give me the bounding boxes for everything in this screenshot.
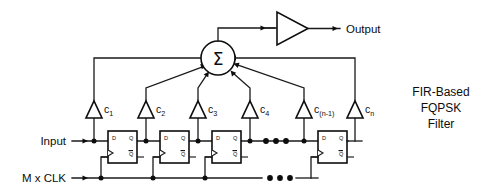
coef-n-sub: n bbox=[370, 109, 374, 118]
svg-text:Input: Input bbox=[40, 135, 66, 147]
svg-text:M x CLK: M x CLK bbox=[22, 172, 66, 184]
svg-text:c(n-1): c(n-1) bbox=[314, 103, 334, 118]
ff3-q-label: Q bbox=[233, 135, 238, 141]
clock-label: M x CLK bbox=[22, 172, 66, 184]
ffn-qbar-label: Q bbox=[339, 151, 344, 157]
output-wire bbox=[308, 26, 340, 31]
caption-block: FIR-Based FQPSK Filter bbox=[412, 85, 469, 131]
svg-text:Output: Output bbox=[346, 23, 381, 35]
sum-route-n bbox=[231, 55, 356, 101]
svg-text:c1: c1 bbox=[104, 103, 113, 118]
input-label: Input bbox=[40, 135, 66, 147]
fir-filter-diagram: D Q Q D Q Q D Q Q bbox=[0, 0, 496, 196]
schematic-canvas: D Q Q D Q Q D Q Q bbox=[0, 0, 496, 196]
ffn-d-label: D bbox=[322, 135, 326, 141]
flipflop-3[interactable]: D Q Q bbox=[205, 131, 248, 163]
coef-amplifier-n-minus-1[interactable] bbox=[296, 101, 312, 118]
ff3-qbar-label: Q bbox=[233, 151, 238, 157]
summer-output-wire bbox=[218, 25, 277, 41]
svg-text:c2: c2 bbox=[156, 103, 165, 118]
coef-amplifier-4[interactable] bbox=[242, 101, 258, 118]
ff1-d-label: D bbox=[112, 135, 116, 141]
coef-amplifier-1[interactable] bbox=[86, 101, 102, 118]
flipflop-1[interactable]: D Q Q bbox=[101, 131, 144, 163]
coef-amplifier-2[interactable] bbox=[138, 101, 154, 118]
coef-label-n: cn bbox=[365, 103, 374, 118]
svg-text:cn: cn bbox=[365, 103, 374, 118]
caption-line-3: Filter bbox=[428, 117, 455, 131]
clock-bus-ellipsis bbox=[267, 175, 293, 181]
ff3-d-label: D bbox=[216, 135, 220, 141]
coef-label-4: c4 bbox=[260, 103, 269, 118]
caption-line-1: FIR-Based bbox=[412, 85, 469, 99]
coef-label-3: c3 bbox=[208, 103, 217, 118]
ff2-q-label: Q bbox=[181, 135, 186, 141]
ff2-d-label: D bbox=[164, 135, 168, 141]
output-label: Output bbox=[346, 23, 381, 35]
sum-route-4 bbox=[231, 71, 250, 102]
output-amplifier[interactable] bbox=[277, 12, 308, 45]
summing-junction[interactable]: Σ bbox=[201, 41, 235, 75]
coef-label-2: c2 bbox=[156, 103, 165, 118]
svg-text:c4: c4 bbox=[260, 103, 269, 118]
coef-1-sub: 1 bbox=[109, 109, 113, 118]
ff1-qbar-label: Q bbox=[129, 151, 134, 157]
sum-route-1 bbox=[94, 55, 207, 101]
coef-3-sub: 3 bbox=[213, 109, 217, 118]
svg-text:c3: c3 bbox=[208, 103, 217, 118]
coef-2-sub: 2 bbox=[161, 109, 165, 118]
flipflop-n[interactable]: D Q Q bbox=[311, 131, 354, 163]
coef-4-sub: 4 bbox=[265, 109, 269, 118]
ff1-q-label: Q bbox=[129, 135, 134, 141]
input-arrow-icon bbox=[83, 138, 89, 143]
clock-arrow-icon bbox=[83, 175, 89, 180]
ffn-q-label: Q bbox=[339, 135, 344, 141]
caption-line-2: FQPSK bbox=[421, 101, 462, 115]
coef-label-n-minus-1: c(n-1) bbox=[314, 103, 334, 118]
input-bus-ellipsis bbox=[263, 138, 289, 144]
coef-amplifier-3[interactable] bbox=[190, 101, 206, 118]
coef-amplifier-n[interactable] bbox=[347, 101, 363, 118]
ff2-qbar-label: Q bbox=[181, 151, 186, 157]
flipflop-2[interactable]: D Q Q bbox=[153, 131, 196, 163]
coef-n1-sub: (n-1) bbox=[319, 109, 334, 118]
coef-label-1: c1 bbox=[104, 103, 113, 118]
sum-route-3 bbox=[198, 72, 209, 102]
sigma-symbol: Σ bbox=[213, 49, 224, 69]
